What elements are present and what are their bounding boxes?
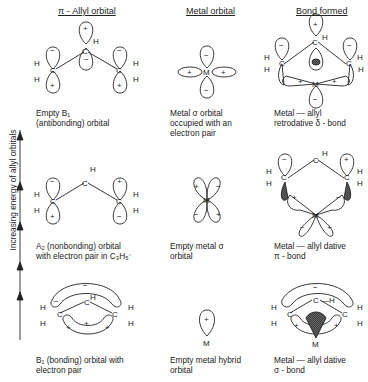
svg-text:H: H bbox=[90, 165, 96, 174]
svg-text:−: − bbox=[279, 41, 284, 50]
svg-text:H: H bbox=[266, 179, 272, 188]
svg-text:M: M bbox=[203, 339, 210, 348]
svg-text:H: H bbox=[357, 319, 363, 328]
svg-text:H: H bbox=[34, 75, 40, 84]
svg-text:—H: —H bbox=[321, 296, 335, 305]
svg-text:−: − bbox=[282, 155, 287, 164]
metal-hybrid-orbital: + M bbox=[199, 310, 214, 348]
allyl-b1-bonding-orbital: C C C H HH HH − + − + + bbox=[40, 281, 134, 334]
svg-text:C: C bbox=[313, 296, 319, 305]
dative-sigma-bond: C C C —H HH HH − + + M bbox=[271, 283, 363, 349]
svg-text:+: + bbox=[105, 323, 110, 332]
svg-text:+: + bbox=[327, 223, 332, 232]
svg-text:−: − bbox=[117, 46, 122, 55]
svg-text:−: − bbox=[117, 212, 122, 221]
svg-text:−: − bbox=[313, 283, 318, 292]
svg-text:−: − bbox=[83, 281, 88, 290]
svg-text:+: + bbox=[216, 210, 221, 219]
svg-text:C: C bbox=[50, 66, 56, 75]
svg-text:−: − bbox=[194, 210, 199, 219]
svg-text:−: − bbox=[54, 297, 59, 306]
svg-text:H: H bbox=[358, 65, 364, 74]
svg-text:C: C bbox=[281, 173, 287, 182]
svg-text:M: M bbox=[312, 80, 319, 89]
svg-text:+: + bbox=[204, 315, 209, 324]
svg-text:H: H bbox=[34, 190, 40, 199]
svg-text:+: + bbox=[84, 319, 89, 328]
svg-text:H: H bbox=[357, 167, 363, 176]
svg-text:H: H bbox=[357, 53, 363, 62]
svg-text:+: + bbox=[298, 77, 303, 86]
svg-text:H: H bbox=[357, 179, 363, 188]
svg-text:+: + bbox=[83, 24, 88, 33]
svg-text:H: H bbox=[93, 37, 99, 46]
allyl-a2-nonbonding-orbital: C C C H HH HH − + + − bbox=[34, 165, 139, 224]
svg-text:H: H bbox=[40, 303, 46, 312]
svg-text:−: − bbox=[300, 223, 305, 232]
svg-text:+: + bbox=[117, 177, 122, 186]
svg-text:C: C bbox=[112, 310, 118, 319]
svg-text:C: C bbox=[312, 38, 318, 47]
svg-text:+: + bbox=[66, 323, 71, 332]
svg-text:+: + bbox=[187, 68, 192, 77]
svg-text:C: C bbox=[57, 310, 63, 319]
svg-text:H: H bbox=[40, 319, 46, 328]
svg-text:−: − bbox=[336, 193, 341, 202]
svg-text:+: + bbox=[294, 321, 299, 330]
svg-text:+: + bbox=[334, 321, 339, 330]
svg-text:H: H bbox=[133, 206, 139, 215]
svg-text:M: M bbox=[203, 196, 210, 205]
svg-text:−: − bbox=[347, 41, 352, 50]
svg-text:+: + bbox=[50, 81, 55, 90]
svg-text:−: − bbox=[204, 86, 209, 95]
svg-text:−: − bbox=[84, 55, 89, 64]
svg-text:C: C bbox=[50, 197, 56, 206]
svg-text:C: C bbox=[346, 59, 352, 68]
svg-text:H: H bbox=[271, 303, 277, 312]
svg-text:+: + bbox=[117, 81, 122, 90]
svg-text:C: C bbox=[287, 310, 293, 319]
energy-axis-arrows bbox=[17, 130, 23, 340]
svg-text:C: C bbox=[116, 66, 122, 75]
svg-text:−: − bbox=[204, 51, 209, 60]
svg-text:+: + bbox=[194, 182, 199, 191]
svg-text:H: H bbox=[34, 206, 40, 215]
svg-text:C: C bbox=[116, 197, 122, 206]
svg-text:+: + bbox=[344, 155, 349, 164]
svg-text:H: H bbox=[322, 149, 328, 158]
retrodative-delta-bond: M C C C HH H HH + − − + + − bbox=[264, 14, 364, 108]
svg-text:C: C bbox=[342, 310, 348, 319]
svg-text:+: + bbox=[332, 77, 337, 86]
svg-text:+: + bbox=[292, 193, 297, 202]
svg-text:H: H bbox=[264, 65, 270, 74]
metal-d-orbital-empty: M + − − + bbox=[194, 178, 221, 222]
svg-text:H: H bbox=[34, 59, 40, 68]
svg-text:H: H bbox=[266, 167, 272, 176]
svg-text:H: H bbox=[133, 190, 139, 199]
svg-text:C: C bbox=[313, 156, 319, 165]
svg-text:H: H bbox=[128, 303, 134, 312]
svg-text:−: − bbox=[50, 46, 55, 55]
svg-text:−: − bbox=[313, 95, 318, 104]
svg-text:+: + bbox=[221, 68, 226, 77]
svg-text:−: − bbox=[50, 177, 55, 186]
svg-text:H: H bbox=[271, 319, 277, 328]
allyl-b1-antibonding-orbital: C C C HH H HH − + + − − + bbox=[34, 22, 139, 93]
svg-text:C: C bbox=[279, 59, 285, 68]
svg-text:H: H bbox=[90, 293, 96, 302]
svg-text:M: M bbox=[312, 340, 319, 349]
metal-sigma-occupied-orbital: M − − + + bbox=[178, 46, 236, 98]
svg-text:C: C bbox=[344, 173, 350, 182]
svg-text:+: + bbox=[313, 20, 318, 29]
svg-text:H: H bbox=[357, 303, 363, 312]
svg-text:H: H bbox=[128, 319, 134, 328]
svg-text:H: H bbox=[133, 75, 139, 84]
orbital-diagram: C C C HH H HH − + + − − + M − − + + M C … bbox=[0, 0, 368, 382]
dative-pi-bond: M C C C H HH HH − + + − − + bbox=[266, 149, 363, 236]
svg-text:H: H bbox=[264, 53, 270, 62]
svg-text:H: H bbox=[322, 33, 328, 42]
svg-text:+: + bbox=[50, 212, 55, 221]
svg-text:−: − bbox=[216, 182, 221, 191]
svg-text:H: H bbox=[133, 59, 139, 68]
svg-text:M: M bbox=[312, 211, 319, 220]
